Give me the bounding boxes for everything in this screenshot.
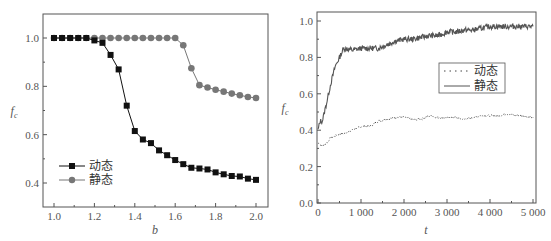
y-tick-label: 0.6 [299, 88, 313, 100]
y-tick-label: 0.8 [25, 80, 39, 92]
y-tick-label: 0.8 [299, 51, 313, 63]
x-tick-label: 1.6 [168, 210, 182, 222]
x-tick-label: 1.2 [88, 210, 102, 222]
x-tick-label: 1.0 [47, 210, 61, 222]
right-x-axis: 01 0002 0003 0004 0005 000 [315, 199, 546, 218]
x-tick-label: 3 000 [435, 206, 460, 218]
x-tick-label: 5 000 [521, 206, 546, 218]
series-line [54, 38, 256, 180]
right-legend: 动态 静态 [439, 63, 505, 93]
x-tick-label: 1 000 [349, 206, 374, 218]
right-chart: 01 0002 0003 0004 0005 000 0.00.20.40.60… [275, 0, 551, 241]
left-legend: 动态 静态 [59, 159, 113, 187]
series-line [54, 38, 256, 98]
right-axes-frame [317, 12, 536, 203]
x-tick-label: 4 000 [478, 206, 503, 218]
y-tick-label: 1.0 [25, 32, 39, 44]
y-tick-label: 0.2 [299, 161, 313, 173]
left-y-axis: 0.40.60.81.0 [25, 32, 47, 189]
left-plot-area [51, 35, 260, 183]
y-tick-label: 1.0 [299, 15, 313, 27]
right-y-axis-label: fc [282, 101, 289, 117]
x-tick-label: 0 [315, 206, 321, 218]
left-legend-dynamic: 动态 [89, 159, 113, 173]
y-tick-label: 0.4 [25, 177, 39, 189]
x-tick-label: 1.4 [128, 210, 142, 222]
left-x-axis-label: b [152, 223, 158, 237]
left-chart-panel: 1.01.21.41.61.82.0 0.40.60.81.0 b fc 动态 … [0, 0, 275, 241]
x-tick-label: 2.0 [249, 210, 263, 222]
y-tick-label: 0.0 [299, 197, 313, 209]
left-x-axis: 1.01.21.41.61.82.0 [47, 203, 263, 222]
left-chart: 1.01.21.41.61.82.0 0.40.60.81.0 b fc 动态 … [0, 0, 275, 241]
right-chart-panel: 01 0002 0003 0004 0005 000 0.00.20.40.60… [275, 0, 551, 241]
square-marker-icon [69, 163, 75, 169]
right-y-axis: 0.00.20.40.60.81.0 [299, 15, 321, 209]
left-y-axis-label: fc [11, 104, 18, 120]
right-legend-static: 静态 [474, 79, 498, 93]
dynamic-series-line [318, 113, 533, 146]
circle-marker-icon [69, 177, 75, 183]
right-x-axis-label: t [424, 223, 428, 237]
x-tick-label: 1.8 [209, 210, 223, 222]
left-legend-static: 静态 [89, 173, 113, 187]
y-tick-label: 0.6 [25, 129, 39, 141]
right-legend-dynamic: 动态 [474, 64, 498, 78]
y-tick-label: 0.4 [299, 124, 313, 136]
x-tick-label: 2 000 [392, 206, 417, 218]
